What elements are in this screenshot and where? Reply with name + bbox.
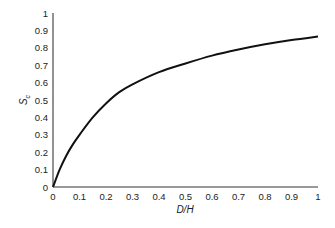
- x-tick-label: 0.6: [205, 191, 218, 202]
- x-tick-label: 0.1: [73, 191, 86, 202]
- x-tick-label: 0: [50, 191, 55, 202]
- y-tick-label: 1: [43, 8, 48, 19]
- x-tick-label: 1: [315, 191, 320, 202]
- x-axis: 00.10.20.30.40.50.60.70.80.91: [50, 187, 320, 202]
- y-tick-label: 0.9: [35, 25, 48, 36]
- chart: 00.10.20.30.40.50.60.70.80.91 00.10.20.3…: [0, 0, 335, 228]
- y-tick-label: 0.2: [35, 147, 48, 158]
- x-tick-label: 0.7: [232, 191, 245, 202]
- y-axis-label: Sc: [18, 94, 31, 105]
- y-tick-label: 0.8: [35, 42, 48, 53]
- x-tick-label: 0.5: [179, 191, 192, 202]
- y-axis: 00.10.20.30.40.50.60.70.80.91: [35, 8, 53, 193]
- y-tick-label: 0.1: [35, 164, 48, 175]
- y-tick-label: 0: [43, 182, 48, 193]
- series-line: [53, 36, 318, 187]
- y-tick-label: 0.7: [35, 60, 48, 71]
- y-tick-label: 0.3: [35, 129, 48, 140]
- y-tick-label: 0.4: [35, 112, 48, 123]
- svg-text:Sc: Sc: [18, 94, 31, 105]
- x-tick-label: 0.4: [152, 191, 165, 202]
- y-tick-label: 0.6: [35, 77, 48, 88]
- x-tick-label: 0.9: [285, 191, 298, 202]
- x-tick-label: 0.2: [99, 191, 112, 202]
- x-axis-label: D/H: [176, 204, 194, 215]
- y-tick-label: 0.5: [35, 95, 48, 106]
- x-tick-label: 0.3: [126, 191, 139, 202]
- curve-layer: [53, 36, 318, 187]
- x-tick-label: 0.8: [258, 191, 271, 202]
